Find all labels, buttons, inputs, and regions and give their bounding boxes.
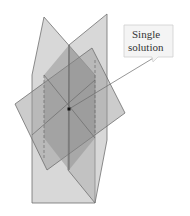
three-planes-diagram: Single solution bbox=[0, 0, 190, 216]
callout-box: Single solution bbox=[124, 25, 173, 62]
solution-point bbox=[68, 108, 71, 111]
callout-line-1: Single bbox=[132, 28, 160, 40]
callout-line-2: solution bbox=[128, 41, 164, 53]
